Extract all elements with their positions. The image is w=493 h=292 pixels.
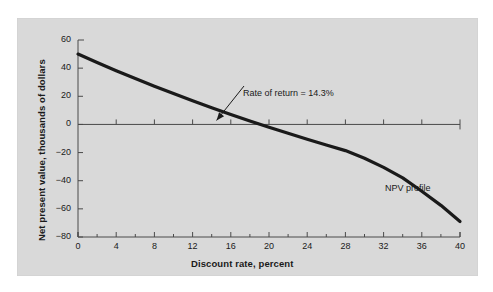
npv-profile-curve bbox=[78, 54, 460, 221]
x-tick-label: 24 bbox=[297, 241, 317, 251]
y-tick-label: 20 bbox=[45, 90, 71, 100]
npv-profile-line bbox=[78, 54, 460, 221]
x-tick-label: 12 bbox=[183, 241, 203, 251]
y-tick-label: 0 bbox=[45, 118, 71, 128]
x-tick-label: 36 bbox=[412, 241, 432, 251]
y-tick-label: −80 bbox=[45, 231, 71, 241]
x-tick-label: 16 bbox=[221, 241, 241, 251]
x-tick-label: 0 bbox=[68, 241, 88, 251]
x-tick-label: 32 bbox=[374, 241, 394, 251]
y-tick-label: −20 bbox=[45, 147, 71, 157]
x-tick-label: 20 bbox=[259, 241, 279, 251]
x-tick-label: 28 bbox=[335, 241, 355, 251]
y-tick-label: 40 bbox=[45, 62, 71, 72]
x-tick-label: 8 bbox=[144, 241, 164, 251]
annotation-arrowhead bbox=[217, 112, 224, 120]
x-tick-label: 40 bbox=[450, 241, 470, 251]
y-tick-label: −60 bbox=[45, 203, 71, 213]
x-tick-label: 4 bbox=[106, 241, 126, 251]
axes bbox=[78, 40, 460, 237]
rate-of-return-annotation: Rate of return = 14.3% bbox=[243, 88, 334, 98]
y-tick-label: −40 bbox=[45, 175, 71, 185]
series-label-npv-profile: NPV profile bbox=[385, 183, 431, 193]
figure: Net present value, thousands of dollars … bbox=[0, 0, 493, 292]
y-tick-label: 60 bbox=[45, 34, 71, 44]
x-axis-title: Discount rate, percent bbox=[191, 258, 294, 269]
